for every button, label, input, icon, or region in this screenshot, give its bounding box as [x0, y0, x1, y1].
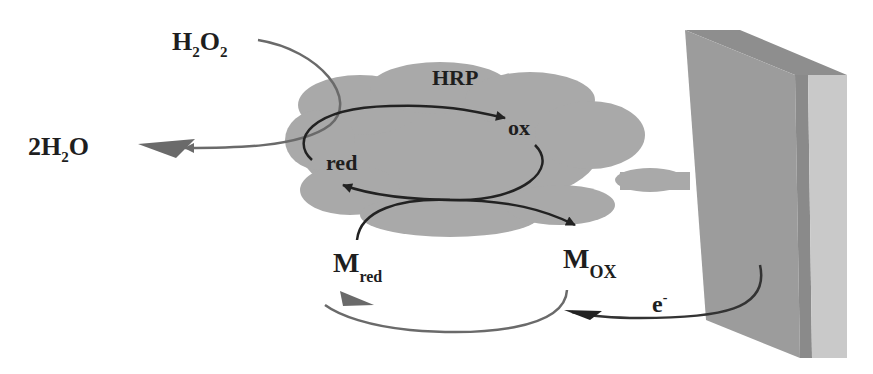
- label-water: 2H2O: [28, 132, 89, 165]
- label-electron: e-: [652, 290, 668, 317]
- label-mediator-red: Mred: [333, 247, 382, 285]
- electrode: [685, 30, 847, 358]
- label-h2o2: H2O2: [172, 27, 227, 60]
- diagram-canvas: H2O2 2H2O HRP ox red Mred MOX e-: [0, 0, 873, 374]
- electron-arrowhead: [564, 310, 602, 320]
- label-hrp-ox: ox: [508, 115, 530, 140]
- electrode-front: [685, 30, 800, 358]
- electrode-side: [808, 75, 847, 358]
- label-hrp-red: red: [326, 150, 357, 175]
- mox-to-mred-arrow: [325, 290, 567, 332]
- label-hrp: HRP: [432, 65, 478, 90]
- mred-arrowhead: [340, 291, 374, 306]
- label-mediator-ox: MOX: [563, 243, 616, 282]
